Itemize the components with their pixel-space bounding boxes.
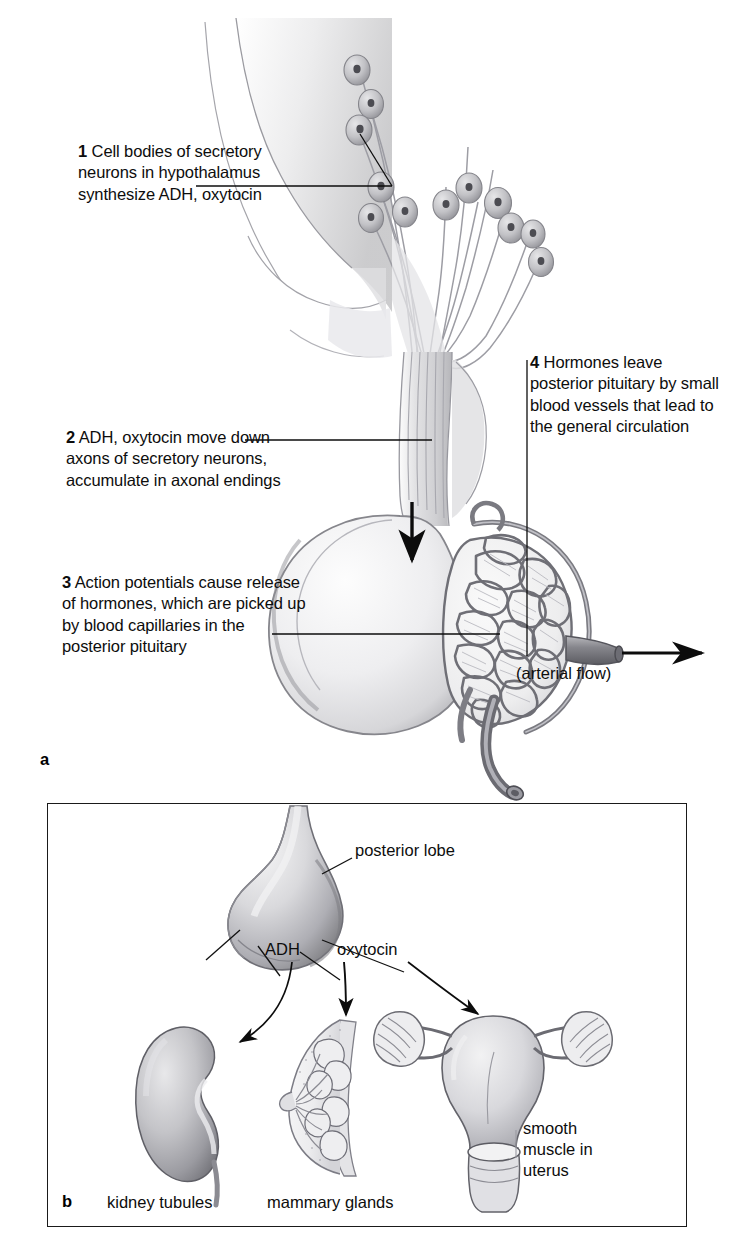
callout-3-number: 3: [62, 573, 71, 591]
oxytocin-label: oxytocin: [337, 939, 398, 960]
smooth-muscle-label: smooth muscle in uterus: [523, 1118, 633, 1181]
draining-vein: [460, 690, 525, 802]
axon-fan-shading: [392, 236, 448, 362]
mammary-glands-label: mammary glands: [267, 1192, 394, 1213]
kidney-tubules-label: kidney tubules: [107, 1192, 213, 1213]
arterial-flow-label: (arterial flow): [516, 663, 611, 684]
figure-page: 1 Cell bodies of secretory neurons in hy…: [0, 0, 731, 1258]
callout-4-number: 4: [530, 353, 539, 371]
posterior-pituitary-capillary-network: [443, 503, 589, 732]
infundibulum-stalk: [399, 352, 486, 528]
callout-2-text: ADH, oxytocin move down axons of secreto…: [66, 428, 281, 489]
callout-3: 3 Action potentials cause release of hor…: [62, 572, 312, 657]
callout-2: 2 ADH, oxytocin move down axons of secre…: [66, 427, 311, 491]
secretory-neuron-axons: [362, 78, 536, 368]
callout-3-text: Action potentials cause release of hormo…: [62, 573, 306, 655]
callout-4: 4 Hormones leave posterior pituitary by …: [530, 352, 720, 437]
posterior-lobe-label: posterior lobe: [355, 840, 475, 861]
callout-1: 1 Cell bodies of secretory neurons in hy…: [78, 141, 293, 205]
callout-4-text: Hormones leave posterior pituitary by sm…: [530, 353, 719, 435]
adh-label: ADH: [265, 939, 300, 960]
panel-a-letter: a: [40, 750, 49, 769]
arterial-vessel: [566, 636, 702, 664]
callout-1-number: 1: [78, 142, 87, 160]
secretory-neuron-cell-bodies: [344, 55, 554, 277]
callout-2-number: 2: [66, 428, 75, 446]
callout-1-text: Cell bodies of secretory neurons in hypo…: [78, 142, 262, 203]
panel-b-letter: b: [62, 1192, 72, 1211]
